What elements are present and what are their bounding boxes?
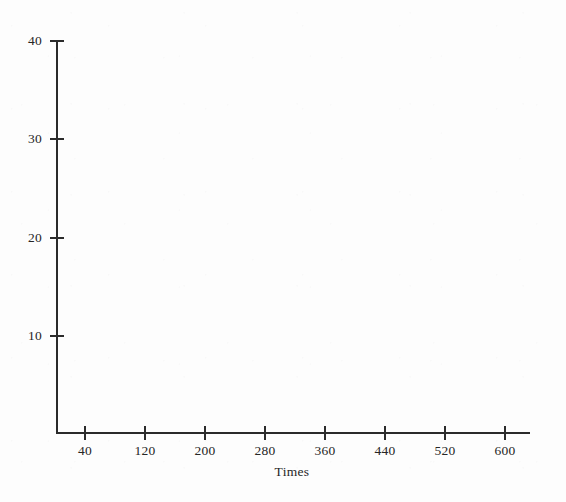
x-axis-tick-label: 440 bbox=[355, 444, 415, 458]
cropped-caption-line bbox=[0, 494, 566, 502]
x-axis-tick-label: 360 bbox=[295, 444, 355, 458]
x-axis-tick-mark bbox=[264, 426, 266, 440]
x-axis-tick-label: 280 bbox=[235, 444, 295, 458]
x-axis-tick-mark bbox=[504, 426, 506, 440]
x-axis-tick-mark bbox=[384, 426, 386, 440]
x-axis-tick-mark bbox=[444, 426, 446, 440]
plot-data-area bbox=[58, 40, 530, 432]
y-axis-tick-label: 30 bbox=[2, 132, 42, 146]
y-axis-tick-label: 10 bbox=[2, 329, 42, 343]
y-axis-tick-mark bbox=[50, 335, 64, 337]
y-axis-tick-mark bbox=[50, 237, 64, 239]
chart-figure: 40 30 20 10 40 120 200 280 360 440 520 6… bbox=[0, 0, 566, 502]
y-axis-tick-label: 20 bbox=[2, 231, 42, 245]
x-axis-tick-mark bbox=[324, 426, 326, 440]
x-axis-tick-label: 600 bbox=[475, 444, 535, 458]
x-axis-line bbox=[56, 432, 530, 434]
y-axis-tick-label: 40 bbox=[2, 34, 42, 48]
y-axis-tick-mark bbox=[50, 40, 64, 42]
x-axis-tick-label: 520 bbox=[415, 444, 475, 458]
x-axis-tick-mark bbox=[144, 426, 146, 440]
x-axis-title: Times bbox=[0, 464, 566, 480]
x-axis-tick-label: 120 bbox=[115, 444, 175, 458]
x-axis-tick-label: 40 bbox=[55, 444, 115, 458]
x-axis-tick-mark bbox=[204, 426, 206, 440]
x-axis-tick-mark bbox=[84, 426, 86, 440]
x-axis-tick-label: 200 bbox=[175, 444, 235, 458]
y-axis-tick-mark bbox=[50, 138, 64, 140]
x-axis-title-text: Times bbox=[275, 464, 310, 480]
